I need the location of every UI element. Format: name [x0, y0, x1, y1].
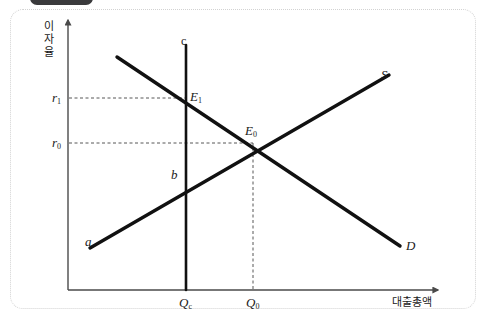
supply-curve-label: S — [381, 68, 388, 81]
x-tick-q0-base: Q — [246, 295, 255, 310]
credit-ceiling-label: c — [181, 35, 186, 47]
supply-curve — [90, 75, 389, 248]
point-e0-base: E — [245, 123, 253, 138]
screenshot-root: 이자율 r1 r0 Qc Q0 대출총액 S D c E1 E0 a b — [0, 0, 495, 327]
y-tick-r0: r0 — [52, 136, 61, 149]
point-label-a: a — [85, 235, 92, 248]
x-axis-title: 대출총액 — [392, 297, 432, 308]
y-tick-r1-sub: 1 — [57, 97, 61, 106]
guide-lines — [69, 98, 253, 289]
point-label-e1: E1 — [190, 90, 202, 103]
x-tick-qc-sub: c — [188, 302, 192, 311]
point-e0-sub: 0 — [253, 130, 257, 139]
x-tick-q0-sub: 0 — [255, 302, 259, 311]
point-e1-sub: 1 — [198, 96, 202, 105]
point-e1-base: E — [190, 89, 198, 104]
y-axis-title: 이자율 — [42, 20, 56, 59]
x-tick-qc-base: Q — [179, 295, 188, 310]
y-tick-r0-sub: 0 — [57, 142, 61, 151]
supply-demand-chart — [0, 0, 495, 327]
point-label-b: b — [171, 168, 178, 181]
y-tick-r1: r1 — [52, 91, 61, 104]
demand-curve-label: D — [406, 239, 415, 252]
x-tick-qc: Qc — [179, 296, 192, 309]
point-label-e0: E0 — [245, 124, 257, 137]
curve-group — [90, 45, 400, 290]
x-tick-q0: Q0 — [246, 296, 259, 309]
